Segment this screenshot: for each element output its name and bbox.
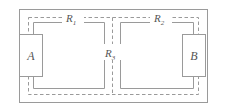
component-box-b-label: B: [190, 49, 198, 63]
component-box-a-label: A: [26, 49, 35, 63]
r3-label-subscript: 3: [111, 54, 116, 62]
left-mesh-loop: [34, 23, 105, 89]
circuit-diagram-svg: A B R1 R2 R3: [0, 0, 225, 112]
r1-label-subscript: 1: [73, 19, 77, 27]
r2-label-subscript: 2: [161, 19, 165, 27]
diagram-canvas: A B R1 R2 R3: [0, 0, 225, 112]
